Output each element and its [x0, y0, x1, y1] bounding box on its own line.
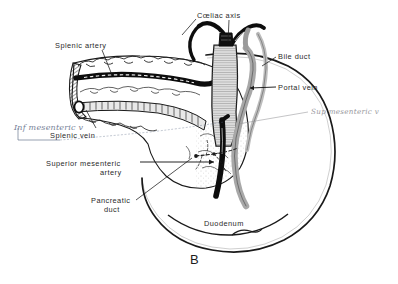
anatomical-figure: Cœliac axis Splenic artery Bile duct Por…: [0, 0, 398, 284]
label-bile-duct: Bile duct: [278, 52, 310, 61]
label-pancreatic-duct-line1: Pancreatic: [91, 196, 130, 205]
label-pancreatic-duct-line2: duct: [104, 205, 120, 214]
leader-sup-mesenteric-vein: [238, 112, 308, 124]
label-portal-vein: Portal vein: [278, 83, 318, 92]
annotation-inf-mesenteric-vein: Inf mesenteric v: [14, 124, 83, 132]
annotation-sup-mesenteric-vein: Sup mesenteric v: [311, 108, 379, 116]
label-superior-mesenteric-artery-line1: Superior mesenteric: [46, 159, 121, 168]
label-coeliac-axis: Cœliac axis: [197, 11, 241, 20]
figure-letter: B: [190, 252, 199, 267]
label-duodenum: Duodenum: [204, 219, 244, 228]
label-splenic-artery: Splenic artery: [55, 41, 107, 50]
label-superior-mesenteric-artery-line2: artery: [100, 168, 122, 177]
